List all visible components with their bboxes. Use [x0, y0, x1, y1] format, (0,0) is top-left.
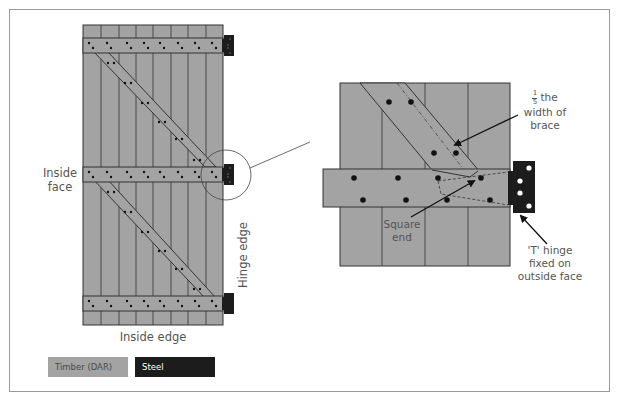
legend-timber: Timber (DAR)	[48, 357, 128, 377]
bottom-hinge	[224, 293, 234, 314]
t-hinge-arrow	[521, 216, 547, 244]
top-hinge	[224, 35, 234, 56]
gate-construction-diagram	[0, 0, 619, 401]
detail-ledger	[323, 169, 510, 207]
top-ledger	[83, 38, 223, 53]
t-hinge	[513, 161, 535, 213]
bottom-ledger	[83, 296, 223, 311]
legend-steel: Steel	[135, 357, 215, 377]
full-gate	[83, 25, 310, 325]
inside-edge-label: Inside edge	[113, 330, 193, 344]
inside-face-label: Inside face	[40, 166, 80, 194]
square-end-label: Square end	[380, 218, 424, 244]
middle-hinge	[224, 164, 234, 185]
t-hinge-label: 'T' hinge fixed on outside face	[508, 244, 592, 283]
fraction: 1 5	[532, 90, 537, 106]
hinges	[222, 35, 234, 314]
brace-width-label: 1 5 the width of brace	[510, 90, 580, 132]
hinge-edge-label: Hinge edge	[236, 215, 250, 295]
detail-leader-line	[250, 142, 310, 168]
